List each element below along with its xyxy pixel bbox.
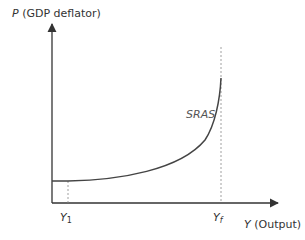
y1-label: Y1 xyxy=(60,212,72,225)
yf-label: Yf xyxy=(213,212,223,225)
sras-curve xyxy=(52,78,221,181)
x-axis-label: Y (Output) xyxy=(244,219,301,230)
sras-label: SRAS xyxy=(186,109,215,120)
sras-diagram xyxy=(0,0,305,240)
y-axis-label: P (GDP deflator) xyxy=(12,8,101,19)
